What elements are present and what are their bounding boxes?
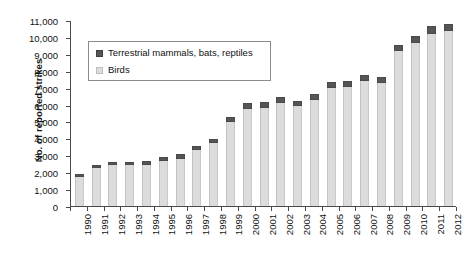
- bar-segment-terrestrial: [209, 139, 218, 144]
- x-tick-mark: [422, 207, 423, 211]
- bar-segment-birds: [159, 161, 168, 206]
- x-tick-mark: [120, 207, 121, 211]
- x-tick-label: 2002: [284, 214, 295, 235]
- y-tick-label: 1,000: [34, 185, 58, 196]
- bar-segment-birds: [260, 108, 269, 206]
- legend-item-terrestrial: Terrestrial mammals, bats, reptiles: [96, 48, 253, 58]
- x-tick-label: 2003: [301, 214, 312, 235]
- bar-segment-birds: [360, 81, 369, 206]
- x-tick-mark: [439, 207, 440, 211]
- y-tick-label: 6,000: [34, 100, 58, 111]
- x-tick-label: 2006: [351, 214, 362, 235]
- bar-segment-birds: [310, 100, 319, 206]
- bar-segment-terrestrial: [226, 117, 235, 122]
- y-axis-ticks: 01,0002,0003,0004,0005,0006,0007,0008,00…: [0, 0, 66, 263]
- bar-segment-birds: [108, 165, 117, 206]
- x-tick-mark: [171, 207, 172, 211]
- y-tick-label: 9,000: [34, 49, 58, 60]
- x-tick-label: 2008: [384, 214, 395, 235]
- x-tick-mark: [221, 207, 222, 211]
- x-tick-mark: [255, 207, 256, 211]
- bar-segment-birds: [125, 165, 134, 206]
- x-tick-label: 1993: [133, 214, 144, 235]
- bar-segment-birds: [411, 43, 420, 206]
- bar-segment-birds: [293, 106, 302, 206]
- bar-segment-birds: [192, 150, 201, 206]
- bar-segment-birds: [226, 122, 235, 206]
- x-tick-mark: [406, 207, 407, 211]
- bar-segment-terrestrial: [411, 36, 420, 43]
- y-tick-label: 10,000: [29, 32, 58, 43]
- bar-segment-birds: [243, 109, 252, 206]
- x-tick-label: 1994: [150, 214, 161, 235]
- bar-segment-terrestrial: [125, 162, 134, 166]
- y-tick-label: 11,000: [30, 16, 58, 27]
- x-tick-mark: [322, 207, 323, 211]
- bar-segment-birds: [394, 51, 403, 206]
- x-tick-label: 2012: [452, 214, 463, 235]
- y-tick-label: 2,000: [34, 168, 58, 179]
- x-tick-label: 1995: [166, 214, 177, 235]
- bar-segment-birds: [427, 34, 436, 206]
- bar-segment-terrestrial: [327, 82, 336, 88]
- bar-segment-terrestrial: [192, 146, 201, 151]
- bar-segment-birds: [327, 88, 336, 206]
- bar-segment-birds: [75, 177, 84, 206]
- x-tick-mark: [187, 207, 188, 211]
- x-tick-label: 1990: [82, 214, 93, 235]
- legend-swatch-icon-birds: [96, 67, 103, 74]
- bar-segment-terrestrial: [159, 157, 168, 161]
- legend-swatch-icon-terrestrial: [96, 50, 103, 57]
- x-tick-label: 2000: [250, 214, 261, 235]
- x-tick-mark: [70, 207, 71, 211]
- bar-segment-birds: [209, 143, 218, 206]
- bar-segment-terrestrial: [360, 75, 369, 81]
- bar-segment-terrestrial: [243, 103, 252, 108]
- bar-segment-terrestrial: [343, 81, 352, 87]
- bar-segment-terrestrial: [276, 97, 285, 103]
- legend-item-birds: Birds: [96, 65, 130, 75]
- x-tick-label: 1999: [233, 214, 244, 235]
- x-tick-mark: [389, 207, 390, 211]
- x-tick-label: 2001: [267, 214, 278, 235]
- bar-segment-terrestrial: [427, 26, 436, 33]
- x-tick-mark: [456, 207, 457, 211]
- x-tick-mark: [87, 207, 88, 211]
- x-tick-mark: [104, 207, 105, 211]
- bar-segment-terrestrial: [394, 45, 403, 52]
- bar-segment-terrestrial: [108, 162, 117, 166]
- y-tick-label: 0: [53, 202, 58, 213]
- bar-segment-terrestrial: [75, 174, 84, 177]
- bar-segment-birds: [176, 159, 185, 206]
- x-tick-label: 1997: [200, 214, 211, 235]
- x-axis-ticks: 1990199119921993199419951996199719981999…: [70, 207, 456, 263]
- bar-segment-birds: [142, 165, 151, 206]
- y-tick-label: 5,000: [34, 117, 58, 128]
- y-tick-label: 3,000: [34, 151, 58, 162]
- x-tick-label: 2005: [334, 214, 345, 235]
- y-tick-label: 7,000: [34, 83, 58, 94]
- bar-segment-terrestrial: [377, 77, 386, 83]
- bar-segment-birds: [276, 103, 285, 206]
- x-tick-mark: [372, 207, 373, 211]
- bar-segment-terrestrial: [293, 101, 302, 107]
- x-tick-mark: [204, 207, 205, 211]
- bar-segment-terrestrial: [444, 24, 453, 31]
- bar-segment-terrestrial: [310, 94, 319, 100]
- bar-segment-terrestrial: [142, 161, 151, 165]
- bar-segment-birds: [92, 168, 101, 206]
- y-tick-label: 8,000: [34, 66, 58, 77]
- legend-label-birds: Birds: [108, 65, 130, 75]
- bar-segment-terrestrial: [176, 154, 185, 158]
- x-tick-label: 2011: [435, 214, 446, 234]
- x-tick-mark: [271, 207, 272, 211]
- bar-segment-terrestrial: [92, 165, 101, 168]
- x-tick-label: 2009: [401, 214, 412, 235]
- x-tick-mark: [355, 207, 356, 211]
- x-tick-label: 2004: [317, 214, 328, 235]
- x-tick-mark: [288, 207, 289, 211]
- x-tick-mark: [339, 207, 340, 211]
- x-tick-mark: [238, 207, 239, 211]
- x-tick-label: 2010: [418, 214, 429, 235]
